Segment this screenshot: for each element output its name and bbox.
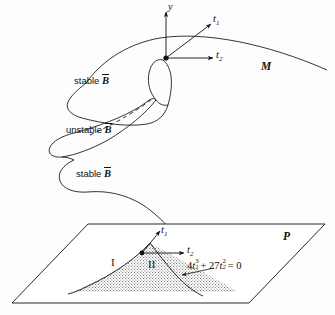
plane-t1-axis-label: t1	[161, 225, 167, 238]
figure-canvas	[0, 0, 335, 315]
surface-t1-axis-label: t1	[213, 14, 219, 27]
cusp-loop-right	[163, 60, 171, 105]
plane-region-label-II: II	[148, 259, 155, 270]
surface-origin-point	[163, 55, 168, 60]
plane-region-label-I: I	[111, 257, 115, 268]
surface-lower-back-edge	[62, 157, 74, 160]
equilibrium-surface-M	[49, 36, 327, 243]
cusp-loop-left	[148, 60, 168, 106]
surface-upper-back-edge	[86, 36, 327, 83]
surface-branch-label-middle-unstable: unstable B	[66, 123, 112, 135]
plane-origin-point	[140, 251, 145, 256]
cusp-catastrophe-figure: y t1 t2 M stable B unstable B stable B t…	[0, 0, 335, 315]
plane-label-P: P	[283, 231, 290, 243]
surface-t1-axis	[166, 24, 211, 58]
control-plane-P	[12, 224, 325, 303]
surface-t2-axis-label: t2	[216, 50, 222, 63]
surface-upper-left-fold	[67, 83, 86, 118]
surface-y-axis-label: y	[168, 2, 173, 13]
plane-t2-axis-label: t2	[187, 245, 193, 258]
surface-branch-label-upper-stable: stable B	[74, 74, 109, 86]
surface-label-M: M	[261, 61, 271, 73]
surface-branch-label-lower-stable: stable B	[76, 167, 111, 179]
surface-middle-left-nose	[49, 133, 74, 157]
bifurcation-equation: 4t31 + 27t22 = 0	[187, 261, 241, 272]
